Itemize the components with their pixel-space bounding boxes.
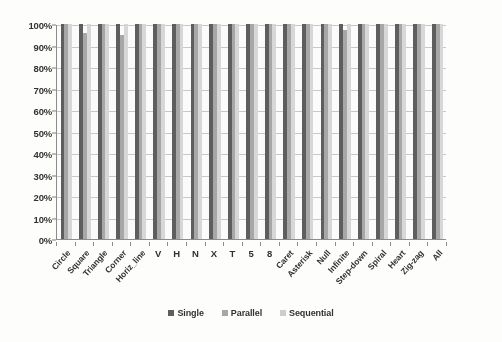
x-axis-tick-mark — [149, 242, 150, 246]
y-axis-tick-label: 10% — [0, 213, 52, 224]
x-axis-tick-mark — [316, 242, 317, 246]
x-axis-tick-mark — [427, 242, 428, 246]
x-axis-tick-label: 5 — [242, 248, 260, 259]
x-axis-tick-mark — [279, 242, 280, 246]
bar-group — [191, 25, 203, 239]
y-axis-tick-label: 50% — [0, 127, 52, 138]
x-axis-tick-label: T — [223, 248, 241, 259]
bar-group — [98, 25, 110, 239]
y-axis-tick-mark — [52, 197, 56, 198]
x-axis-tick-label: All — [430, 248, 444, 263]
bar-group — [283, 25, 295, 239]
y-axis-tick-mark — [52, 175, 56, 176]
x-axis-tick-mark — [242, 242, 243, 246]
bar — [384, 24, 388, 239]
legend-swatch-icon — [222, 310, 228, 316]
bar-group — [321, 25, 333, 239]
x-axis-tick-mark — [353, 242, 354, 246]
bar — [402, 24, 406, 239]
x-axis-tick-label: 8 — [261, 248, 279, 259]
legend-label: Parallel — [231, 308, 262, 318]
x-axis-tick-mark — [186, 242, 187, 246]
bar — [440, 24, 444, 239]
bar-group — [135, 25, 147, 239]
x-axis-tick-mark — [205, 242, 206, 246]
plot-area — [56, 25, 446, 240]
x-axis-tick-mark — [335, 242, 336, 246]
y-axis-tick-mark — [52, 111, 56, 112]
x-axis-tick-mark — [112, 242, 113, 246]
y-axis-tick-mark — [52, 132, 56, 133]
y-axis-tick-mark — [52, 218, 56, 219]
bar — [105, 24, 109, 239]
bar-group — [79, 25, 91, 239]
y-axis-tick-mark — [52, 89, 56, 90]
bar — [310, 24, 314, 239]
y-axis-tick-label: 60% — [0, 106, 52, 117]
bar — [87, 24, 91, 239]
x-axis-tick-mark — [372, 242, 373, 246]
bar — [365, 24, 369, 239]
bar-group — [432, 25, 444, 239]
x-axis-tick-label: V — [149, 248, 167, 259]
bars-layer — [57, 25, 446, 239]
x-axis-tick-mark — [167, 242, 168, 246]
x-axis-tick-label: H — [168, 248, 186, 259]
chart-legend: SingleParallelSequential — [0, 308, 502, 318]
y-axis-tick-mark — [52, 25, 56, 26]
y-axis-tick-label: 70% — [0, 84, 52, 95]
bar-group — [413, 25, 425, 239]
y-axis-tick-label: 100% — [0, 20, 52, 31]
legend-label: Single — [177, 308, 203, 318]
y-axis-tick-label: 80% — [0, 63, 52, 74]
y-axis-tick-label: 0% — [0, 235, 52, 246]
x-axis-tick-mark — [223, 242, 224, 246]
legend-item: Parallel — [222, 308, 262, 318]
bar-group — [302, 25, 314, 239]
legend-item: Single — [168, 308, 203, 318]
x-axis-tick-mark — [446, 242, 447, 246]
x-axis-tick-mark — [93, 242, 94, 246]
y-axis-tick-mark — [52, 240, 56, 241]
bar — [142, 24, 146, 239]
x-axis-tick-mark — [297, 242, 298, 246]
legend-label: Sequential — [289, 308, 334, 318]
bar — [161, 24, 165, 239]
bar — [124, 24, 128, 239]
bar — [198, 24, 202, 239]
bar — [421, 24, 425, 239]
x-axis-tick-mark — [75, 242, 76, 246]
x-axis-tick-label: X — [205, 248, 223, 259]
y-axis-tick-label: 90% — [0, 41, 52, 52]
y-axis-tick-mark — [52, 46, 56, 47]
y-axis-tick-label: 40% — [0, 149, 52, 160]
bar — [68, 24, 72, 239]
bar — [180, 24, 184, 239]
legend-item: Sequential — [280, 308, 334, 318]
y-axis-tick-label: 30% — [0, 170, 52, 181]
bar-group — [339, 25, 351, 239]
bar — [272, 24, 276, 239]
y-axis-tick-label: 20% — [0, 192, 52, 203]
x-axis: CircleSquareTriangleCornerHoriz_lineVHNX… — [56, 242, 446, 302]
bar — [291, 24, 295, 239]
legend-swatch-icon — [168, 310, 174, 316]
x-axis-tick-mark — [56, 242, 57, 246]
y-axis-tick-mark — [52, 154, 56, 155]
bar-group — [395, 25, 407, 239]
bar — [217, 24, 221, 239]
bar-group — [246, 25, 258, 239]
bar-group — [209, 25, 221, 239]
bar-group — [153, 25, 165, 239]
bar-group — [61, 25, 73, 239]
y-axis-tick-mark — [52, 68, 56, 69]
legend-swatch-icon — [280, 310, 286, 316]
bar — [328, 24, 332, 239]
x-axis-tick-mark — [130, 242, 131, 246]
bar-group — [172, 25, 184, 239]
bar-group — [358, 25, 370, 239]
bar-group — [376, 25, 388, 239]
x-axis-tick-mark — [409, 242, 410, 246]
x-axis-tick-mark — [390, 242, 391, 246]
bar-group — [228, 25, 240, 239]
